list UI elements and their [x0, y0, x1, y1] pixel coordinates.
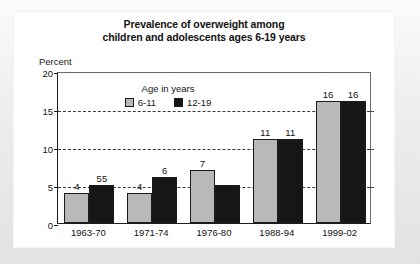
y-tick-label-0: 0 [48, 220, 53, 231]
plot-area: 05101520 Age in years 6-11 12-19 4554671… [57, 72, 371, 224]
y-tick-label-15: 15 [42, 106, 53, 117]
x-axis-label-1963-70: 1963-70 [71, 227, 106, 238]
chart-title-line-2: children and adolescents ages 6-19 years [14, 31, 394, 44]
bar-group-1976-80: 7 [190, 73, 240, 223]
bar-groups: 45546711111616 [58, 73, 370, 223]
bar-12-19-1971-74[interactable]: 6 [152, 177, 177, 223]
bar-group-1988-94: 1111 [253, 73, 303, 223]
y-tick-mark-0 [54, 225, 58, 226]
bar-label-6-11-1971-74: 4 [137, 181, 142, 192]
chart-panel: Prevalence of overweight among children … [14, 12, 394, 247]
bar-6-11-1976-80[interactable]: 7 [190, 170, 215, 223]
y-axis-label: Percent [39, 56, 72, 67]
y-tick-mark-right-15 [370, 111, 374, 112]
y-tick-label-5: 5 [48, 182, 53, 193]
bar-label-12-19-1971-74: 6 [162, 165, 167, 176]
bar-label-6-11-1999-02: 16 [323, 89, 334, 100]
bar-6-11-1999-02[interactable]: 16 [316, 101, 341, 223]
y-tick-label-10: 10 [42, 144, 53, 155]
bar-12-19-1976-80[interactable] [215, 185, 240, 223]
bar-label-6-11-1976-80: 7 [200, 158, 205, 169]
bar-label-6-11-1988-94: 11 [260, 127, 270, 138]
bar-6-11-1988-94[interactable]: 11 [253, 139, 278, 223]
bar-12-19-1963-70[interactable]: 55 [89, 185, 114, 223]
outer-frame: Prevalence of overweight among children … [0, 0, 420, 264]
chart-title: Prevalence of overweight among children … [14, 18, 394, 44]
x-axis-label-1976-80: 1976-80 [197, 227, 232, 238]
y-tick-label-20: 20 [42, 68, 53, 79]
bar-group-1971-74: 46 [127, 73, 177, 223]
bar-group-1999-02: 1616 [316, 73, 366, 223]
x-axis-label-1988-94: 1988-94 [259, 227, 294, 238]
x-axis-label-1999-02: 1999-02 [322, 227, 357, 238]
bar-label-12-19-1999-02: 16 [348, 89, 359, 100]
bar-label-12-19-1963-70: 55 [97, 173, 108, 184]
y-tick-mark-right-10 [370, 149, 374, 150]
bar-label-6-11-1963-70: 4 [74, 181, 79, 192]
bar-12-19-1999-02[interactable]: 16 [341, 101, 366, 223]
bar-group-1963-70: 455 [64, 73, 114, 223]
chart-title-line-1: Prevalence of overweight among [14, 18, 394, 31]
x-axis-label-1971-74: 1971-74 [134, 227, 169, 238]
bar-6-11-1963-70[interactable]: 4 [64, 193, 89, 223]
x-axis-labels: 1963-701971-741976-801988-941999-02 [57, 227, 371, 245]
bar-12-19-1988-94[interactable]: 11 [278, 139, 303, 223]
bar-6-11-1971-74[interactable]: 4 [127, 193, 152, 223]
bar-label-12-19-1988-94: 11 [285, 127, 295, 138]
y-tick-mark-right-5 [370, 187, 374, 188]
